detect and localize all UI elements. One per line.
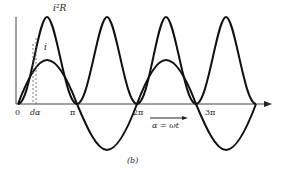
x-axis-label: α = ωt [152, 121, 179, 130]
tick-2pi: 2π [133, 108, 143, 117]
current-curve-label: i [44, 42, 47, 52]
power-curve-label: i²R [53, 3, 66, 13]
waveform-diagram [0, 0, 284, 176]
tick-dalpha: dα [30, 108, 41, 117]
current-curve [18, 60, 256, 150]
power-curve [18, 17, 256, 104]
tick-3pi: 3π [205, 108, 215, 117]
figure-caption: (b) [127, 156, 138, 165]
axis-arrow-icon [264, 101, 272, 107]
x-label-arrow-icon [182, 116, 188, 120]
tick-pi: π [70, 108, 75, 117]
tick-0: 0 [15, 108, 20, 117]
